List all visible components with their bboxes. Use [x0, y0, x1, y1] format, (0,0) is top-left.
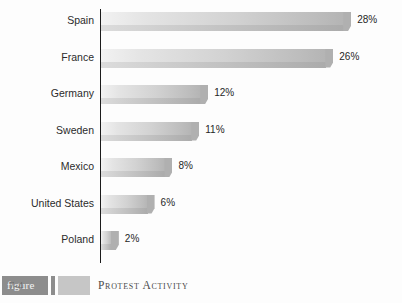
- category-label: Mexico: [0, 160, 94, 172]
- bar-shadow-face: [101, 98, 201, 104]
- caption-divider: [51, 276, 55, 295]
- caption-number-box: [58, 276, 90, 295]
- figure-caption: figure 7-4 Protest Activity: [0, 276, 402, 295]
- caption-figure-number: 7-4: [9, 280, 23, 291]
- bar: [101, 85, 208, 104]
- bar: [101, 49, 333, 68]
- bar-value-label: 2%: [125, 233, 139, 245]
- bar-row: Mexico8%: [0, 155, 402, 189]
- category-label: Spain: [0, 14, 94, 26]
- bar-shadow-face: [101, 25, 344, 31]
- category-label: France: [0, 51, 94, 63]
- caption-figure-title: Protest Activity: [98, 279, 188, 291]
- bar-row: United States6%: [0, 192, 402, 226]
- bar-row: France26%: [0, 46, 402, 80]
- category-label: Sweden: [0, 124, 94, 136]
- category-label: Poland: [0, 233, 94, 245]
- bar-value-label: 6%: [161, 197, 175, 209]
- protest-activity-bar-chart: Spain28%France26%Germany12%Sweden11%Mexi…: [0, 0, 402, 272]
- bar-shadow-face: [101, 135, 192, 141]
- bar-end-bevel: [164, 158, 172, 177]
- bar-value-label: 26%: [339, 51, 359, 63]
- bar-row: Poland2%: [0, 228, 402, 262]
- bar-value-label: 12%: [214, 87, 234, 99]
- bar-end-bevel: [191, 122, 199, 141]
- bar-shadow-face: [101, 62, 326, 68]
- bar-end-bevel: [343, 12, 351, 31]
- category-label: United States: [0, 197, 94, 209]
- bar: [101, 231, 119, 250]
- cropped-title-remnant: [105, 0, 385, 4]
- bar-end-bevel: [147, 195, 155, 214]
- bar-end-bevel: [325, 49, 333, 68]
- bar-end-bevel: [111, 231, 119, 250]
- bar-shadow-face: [101, 171, 165, 177]
- bar-row: Germany12%: [0, 82, 402, 116]
- category-label: Germany: [0, 87, 94, 99]
- bar-shadow-face: [101, 208, 148, 214]
- bar: [101, 12, 351, 31]
- bar-value-label: 8%: [178, 160, 192, 172]
- bar-row: Spain28%: [0, 9, 402, 43]
- bar-value-label: 11%: [205, 124, 224, 136]
- bar-end-bevel: [200, 85, 208, 104]
- bar-shadow-face: [101, 244, 112, 250]
- bar: [101, 158, 172, 177]
- bar: [101, 195, 155, 214]
- bar-value-label: 28%: [357, 14, 377, 26]
- bar-row: Sweden11%: [0, 119, 402, 153]
- bar: [101, 122, 199, 141]
